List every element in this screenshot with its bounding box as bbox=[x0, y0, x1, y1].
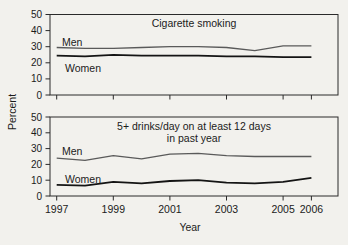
y-tick-label: 50 bbox=[31, 112, 43, 123]
x-tick-label: 2001 bbox=[158, 203, 182, 215]
series-label-men: Men bbox=[62, 36, 83, 48]
chart-title: 5+ drinks/day on at least 12 days bbox=[117, 120, 271, 132]
x-axis-title: Year bbox=[179, 221, 201, 233]
y-tick-label: 30 bbox=[31, 41, 43, 52]
series-line-men bbox=[57, 46, 312, 51]
y-tick-label: 50 bbox=[31, 9, 43, 20]
dual-line-chart-canvas: 50403020100Cigarette smokingMenWomen5040… bbox=[0, 0, 348, 245]
y-tick-label: 10 bbox=[31, 175, 43, 186]
series-label-women: Women bbox=[65, 62, 101, 74]
x-tick-label: 2006 bbox=[300, 203, 324, 215]
y-tick-label: 40 bbox=[31, 127, 43, 138]
x-tick-label: 1997 bbox=[45, 203, 69, 215]
series-label-men: Men bbox=[62, 145, 83, 157]
chart-title: in past year bbox=[167, 132, 222, 144]
series-label-women: Women bbox=[65, 173, 101, 185]
x-tick-label: 1999 bbox=[102, 203, 126, 215]
y-tick-label: 20 bbox=[31, 57, 43, 68]
series-line-women bbox=[57, 55, 312, 57]
series-line-men bbox=[57, 153, 312, 160]
chart-title: Cigarette smoking bbox=[152, 17, 237, 29]
y-tick-label: 0 bbox=[36, 90, 42, 101]
statistical-figure: Percent 50403020100Cigarette smokingMenW… bbox=[0, 0, 348, 245]
y-tick-label: 0 bbox=[36, 191, 42, 202]
x-tick-label: 2005 bbox=[271, 203, 295, 215]
y-tick-label: 20 bbox=[31, 159, 43, 170]
y-tick-label: 10 bbox=[31, 73, 43, 84]
y-tick-label: 40 bbox=[31, 25, 43, 36]
x-tick-label: 2003 bbox=[215, 203, 239, 215]
y-tick-label: 30 bbox=[31, 143, 43, 154]
